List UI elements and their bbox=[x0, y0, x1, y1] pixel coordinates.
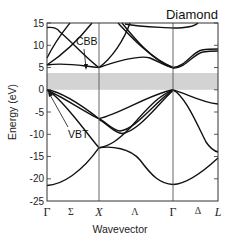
y-tick-5: 5 bbox=[38, 62, 44, 73]
k-label-x: X bbox=[94, 205, 103, 219]
band-lines bbox=[47, 23, 218, 186]
y-tick-15: 15 bbox=[33, 18, 45, 29]
k-label-l: L bbox=[214, 205, 222, 219]
y-tick-neg25: -25 bbox=[30, 196, 45, 207]
y-tick-neg15: -15 bbox=[30, 151, 45, 162]
y-tick-neg10: -10 bbox=[30, 129, 45, 140]
y-tick-0: 0 bbox=[38, 84, 44, 95]
k-label-gamma-1: Γ bbox=[44, 205, 51, 219]
plot-frame bbox=[47, 23, 218, 201]
y-tick-labels: 15 10 5 0 -5 -10 -15 -20 -25 bbox=[30, 18, 45, 207]
k-label-lambda: Λ bbox=[131, 206, 139, 217]
band-structure-diagram: 15 10 5 0 -5 -10 -15 -20 -25 Γ Σ X Λ Γ Δ… bbox=[0, 0, 233, 244]
y-axis-title: Energy (eV) bbox=[6, 84, 18, 140]
x-axis-title: Wavevector bbox=[92, 223, 148, 235]
k-label-gamma-2: Γ bbox=[170, 205, 177, 219]
y-tick-10: 10 bbox=[33, 40, 45, 51]
k-label-sigma: Σ bbox=[68, 206, 74, 217]
vbt-annotation: VBT bbox=[68, 128, 89, 140]
band-gap-region bbox=[47, 73, 218, 90]
y-tick-neg5: -5 bbox=[35, 107, 44, 118]
vbt-arrow bbox=[49, 93, 68, 127]
k-label-delta: Δ bbox=[195, 205, 202, 216]
y-tick-neg20: -20 bbox=[30, 173, 45, 184]
cbb-arrow-head bbox=[84, 64, 88, 70]
k-point-labels: Γ Σ X Λ Γ Δ L bbox=[44, 205, 222, 219]
diagram-title: Diamond bbox=[166, 7, 218, 22]
cbb-annotation: CBB bbox=[76, 35, 98, 47]
